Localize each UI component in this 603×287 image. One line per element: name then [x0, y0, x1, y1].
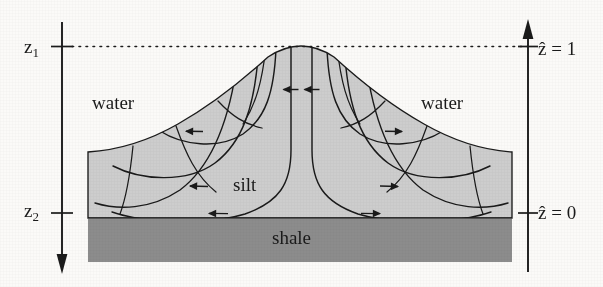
- arrow-right-mid: [380, 186, 398, 187]
- layer-label-water-right: water: [421, 93, 463, 112]
- arrow-left-mid: [190, 186, 208, 187]
- axis-label-zhat-top: ẑ = 1: [538, 39, 576, 58]
- axis-label-z1-sub: 1: [32, 45, 39, 60]
- left-axis-arrowhead: [57, 254, 68, 274]
- layer-label-shale: shale: [272, 228, 311, 247]
- left-z-axis: [51, 22, 73, 274]
- axis-label-zhat-bottom: ẑ = 0: [538, 203, 576, 222]
- layer-label-silt: silt: [233, 175, 256, 194]
- axis-label-z2: z2: [24, 201, 39, 223]
- axis-label-z2-sub: 2: [32, 209, 39, 224]
- axis-label-z1: z1: [24, 37, 39, 59]
- right-zhat-axis: [518, 19, 538, 272]
- figure-canvas: z1 z2 ẑ = 1 ẑ = 0 water water silt shale: [0, 0, 603, 287]
- right-axis-arrowhead: [523, 19, 534, 39]
- layer-label-water-left: water: [92, 93, 134, 112]
